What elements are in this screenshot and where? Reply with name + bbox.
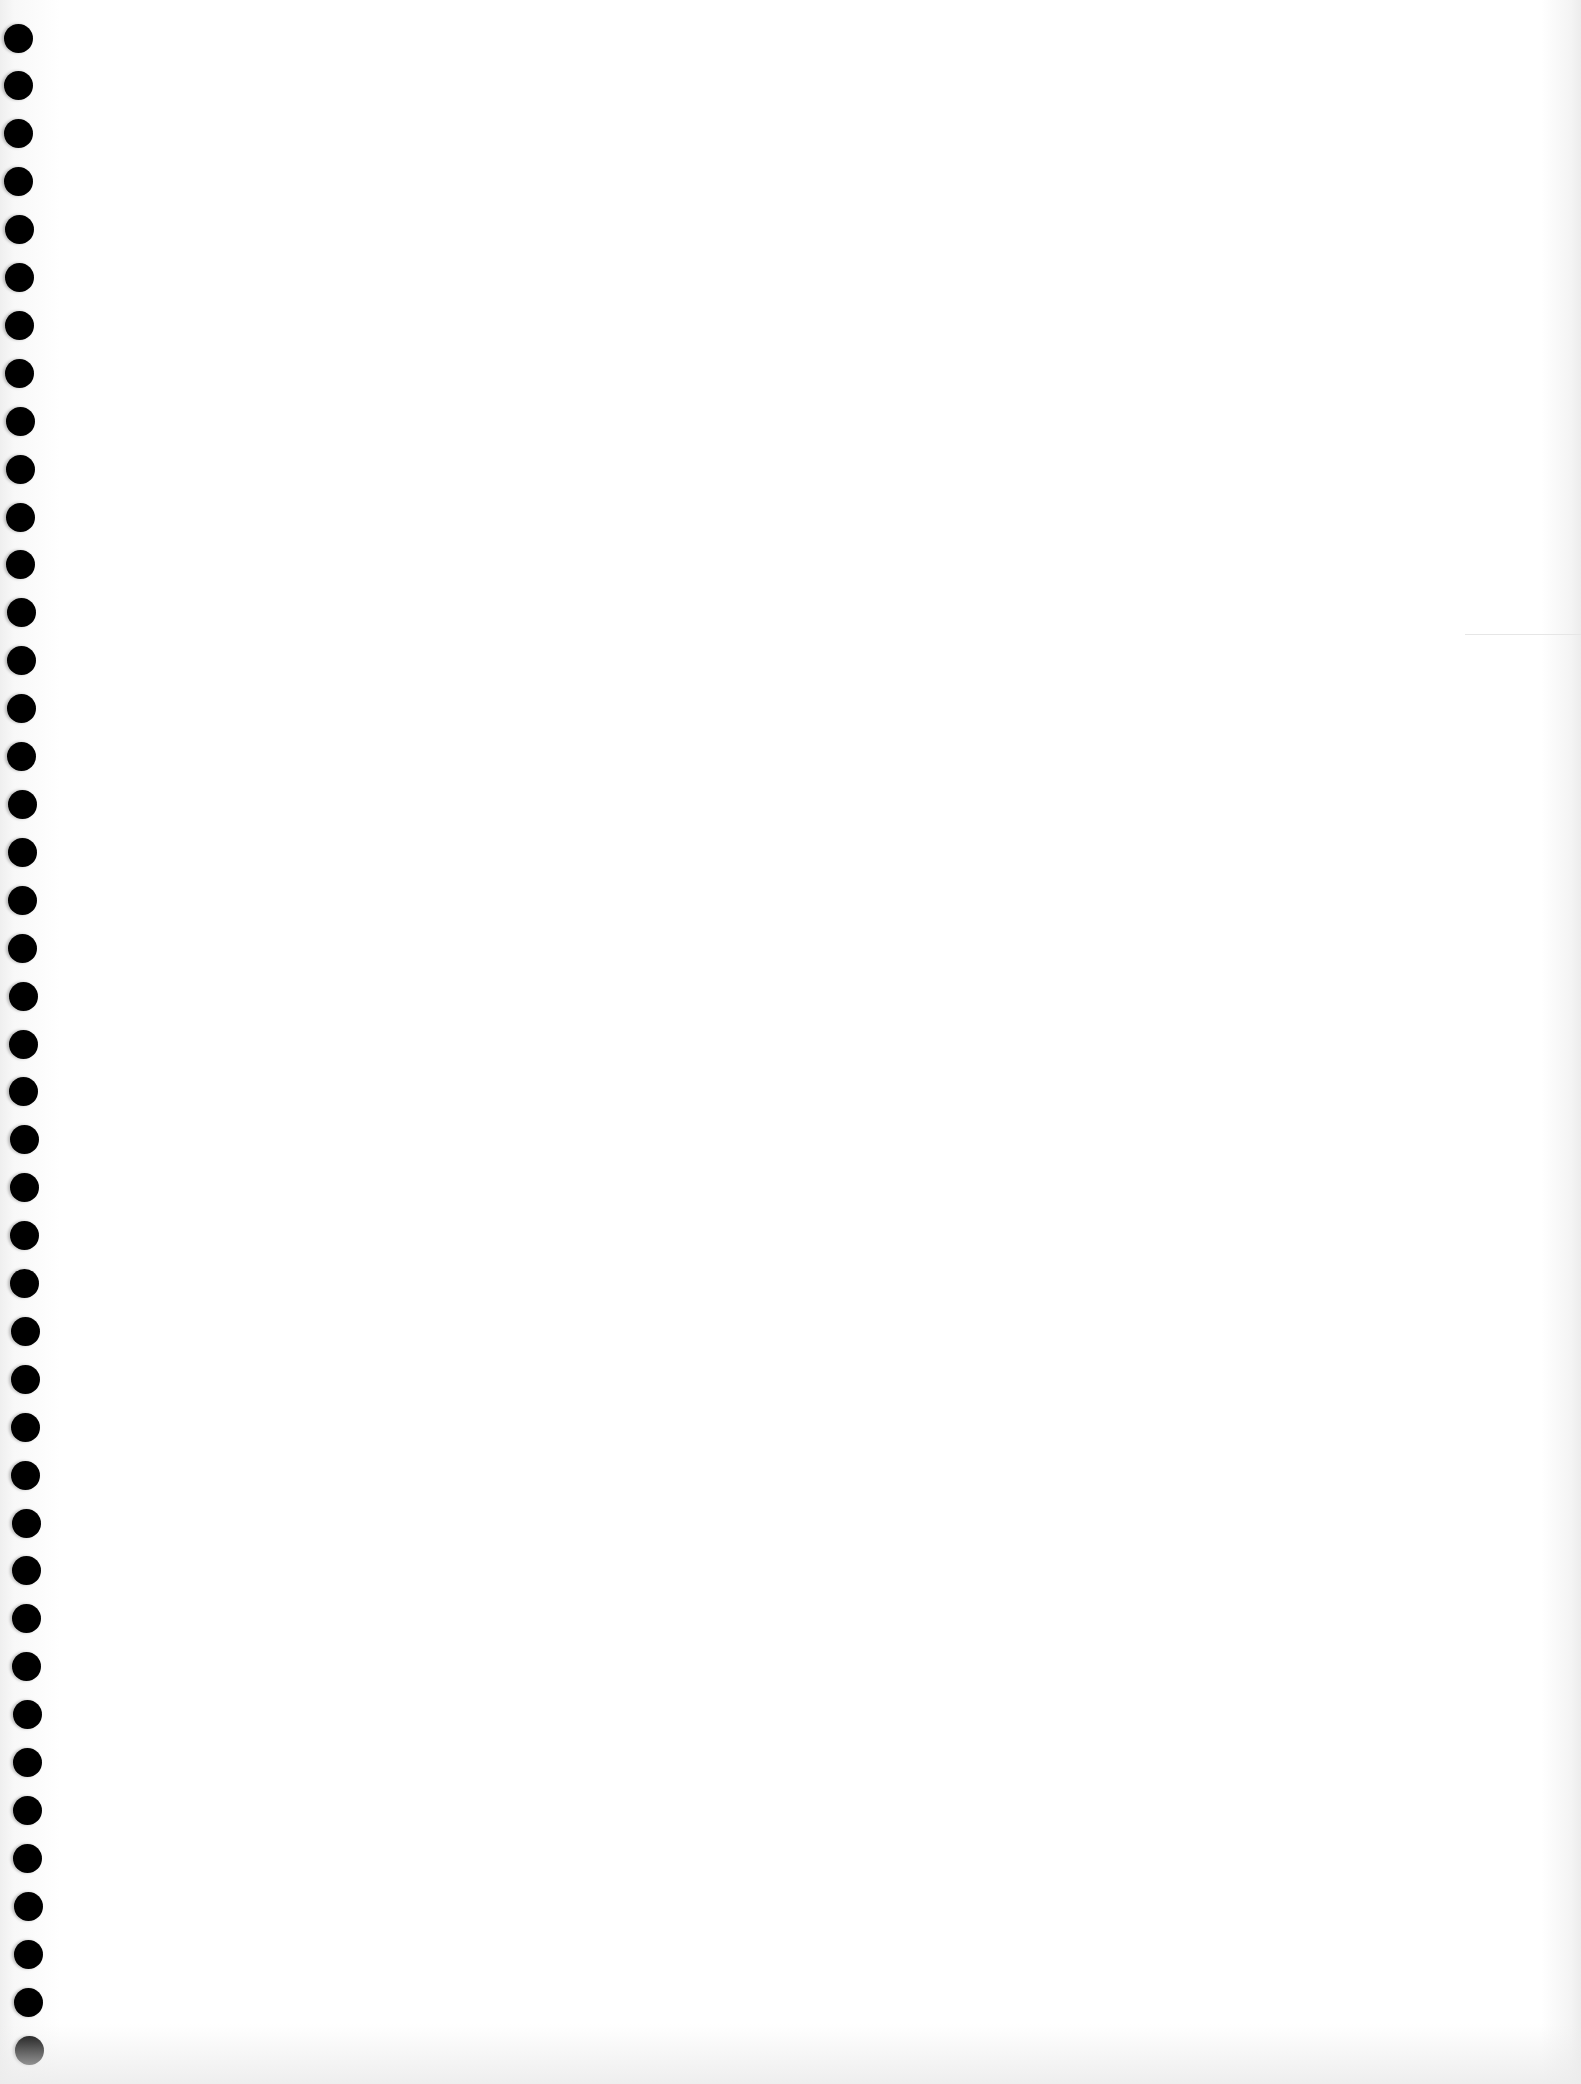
binding-hole <box>7 646 36 675</box>
notebook-page <box>0 0 1581 2084</box>
binding-hole <box>14 1892 43 1921</box>
binding-hole <box>4 119 33 148</box>
binding-hole <box>5 359 34 388</box>
binding-hole <box>12 1509 41 1538</box>
binding-hole <box>14 1940 43 1969</box>
right-edge-faint-line <box>1465 634 1581 635</box>
binding-hole <box>10 1173 39 1202</box>
binding-hole <box>13 1748 42 1777</box>
binding-hole <box>11 1413 40 1442</box>
binding-hole <box>8 934 37 963</box>
binding-hole <box>4 24 33 53</box>
binding-hole <box>15 2036 44 2065</box>
binding-hole <box>8 790 37 819</box>
binding-hole <box>9 1030 38 1059</box>
binding-hole <box>6 455 35 484</box>
binding-hole <box>9 1077 38 1106</box>
binding-hole <box>10 1269 39 1298</box>
binding-hole <box>11 1461 40 1490</box>
binding-hole <box>12 1556 41 1585</box>
binding-hole <box>12 1604 41 1633</box>
binding-hole <box>7 598 36 627</box>
binding-hole <box>12 1652 41 1681</box>
binding-hole <box>7 694 36 723</box>
binding-hole <box>6 550 35 579</box>
binding-hole <box>6 407 35 436</box>
binding-hole <box>7 742 36 771</box>
binding-hole <box>10 1221 39 1250</box>
binding-hole <box>13 1700 42 1729</box>
binding-hole <box>14 1988 43 2017</box>
binding-hole <box>13 1796 42 1825</box>
binding-hole <box>5 311 34 340</box>
binding-hole <box>6 503 35 532</box>
binding-hole <box>11 1365 40 1394</box>
binding-hole <box>5 263 34 292</box>
binding-hole <box>10 1125 39 1154</box>
binding-hole <box>9 982 38 1011</box>
binding-hole <box>5 215 34 244</box>
binding-hole <box>8 838 37 867</box>
binding-hole <box>8 886 37 915</box>
binding-hole <box>13 1844 42 1873</box>
binding-hole <box>4 71 33 100</box>
binding-hole <box>4 167 33 196</box>
binding-hole <box>11 1317 40 1346</box>
